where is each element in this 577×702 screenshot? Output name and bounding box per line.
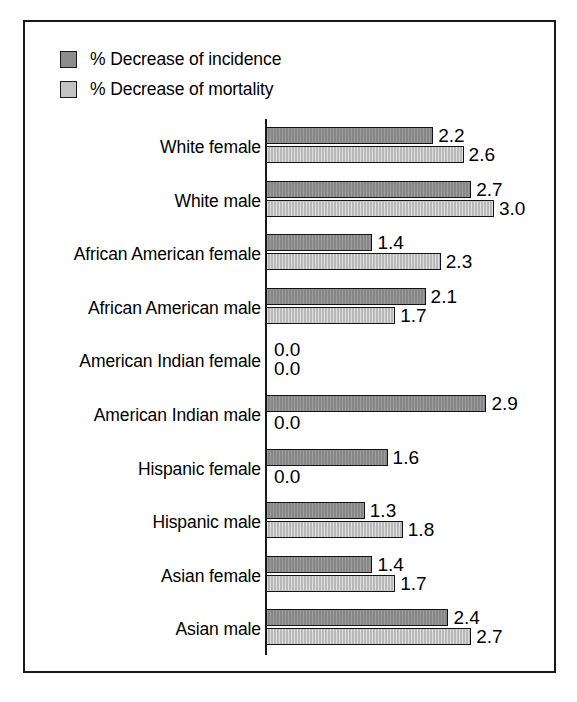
bar-mortality (266, 146, 464, 163)
bar-value-label: 0.0 (274, 341, 300, 358)
bar-row: 1.7 (266, 575, 427, 592)
bar-group: White male2.73.0 (25, 179, 558, 233)
bar-mortality (266, 521, 403, 538)
bar-incidence (266, 288, 426, 305)
category-label: Asian male (31, 619, 261, 640)
bar-row: 2.7 (266, 628, 503, 645)
bar-incidence (266, 127, 433, 144)
bar-value-label: 2.6 (469, 146, 495, 163)
bar-value-label: 1.3 (370, 502, 396, 519)
bar-row: 2.9 (266, 395, 518, 412)
bar-mortality (266, 307, 395, 324)
bar-value-label: 0.0 (274, 414, 300, 431)
bar-row: 0.0 (266, 341, 300, 358)
bar-value-label: 0.0 (274, 468, 300, 485)
bar-mortality (266, 253, 441, 270)
bar-value-label: 1.4 (377, 556, 403, 573)
bar-group: Hispanic female1.60.0 (25, 447, 558, 501)
bar-row: 3.0 (266, 200, 525, 217)
bar-group: American Indian female0.00.0 (25, 339, 558, 393)
bar-value-label: 2.3 (446, 253, 472, 270)
bar-group: Hispanic male1.31.8 (25, 500, 558, 554)
bar-value-label: 0.0 (274, 360, 300, 377)
bar-group: White female2.22.6 (25, 125, 558, 179)
bar-incidence (266, 609, 448, 626)
bar-row: 1.6 (266, 449, 419, 466)
category-label: White male (31, 191, 261, 212)
bar-incidence (266, 181, 471, 198)
bar-incidence (266, 556, 372, 573)
bar-row: 2.2 (266, 127, 465, 144)
category-label: White female (31, 137, 261, 158)
bar-group: Asian male2.42.7 (25, 607, 558, 661)
chart-legend: % Decrease of incidence % Decrease of mo… (60, 44, 360, 104)
legend-item-incidence: % Decrease of incidence (60, 44, 360, 74)
bar-value-label: 2.4 (453, 609, 479, 626)
bar-value-label: 1.7 (400, 575, 426, 592)
bar-mortality (266, 575, 395, 592)
legend-swatch-incidence (60, 51, 77, 68)
chart-figure-frame: White female2.22.6White male2.73.0Africa… (23, 20, 556, 673)
bar-group: American Indian male2.90.0 (25, 393, 558, 447)
legend-item-mortality: % Decrease of mortality (60, 74, 360, 104)
bar-value-label: 2.7 (476, 628, 502, 645)
category-label: Asian female (31, 566, 261, 587)
bar-row: 1.4 (266, 556, 404, 573)
bar-row: 0.0 (266, 414, 300, 431)
bar-row: 2.4 (266, 609, 480, 626)
category-label: Hispanic male (31, 512, 261, 533)
bar-value-label: 1.8 (408, 521, 434, 538)
bar-chart-plot-area: White female2.22.6White male2.73.0Africa… (25, 22, 558, 675)
bar-incidence (266, 502, 365, 519)
legend-label-mortality: % Decrease of mortality (90, 79, 273, 100)
bar-row: 1.8 (266, 521, 434, 538)
bar-row: 1.3 (266, 502, 396, 519)
category-label: American Indian male (31, 405, 261, 426)
bar-value-label: 3.0 (499, 200, 525, 217)
bar-value-label: 1.7 (400, 307, 426, 324)
bar-value-label: 2.9 (491, 395, 517, 412)
bar-row: 0.0 (266, 468, 300, 485)
bar-value-label: 2.7 (476, 181, 502, 198)
category-label: African American male (31, 298, 261, 319)
bar-incidence (266, 234, 372, 251)
bar-incidence (266, 395, 486, 412)
bar-value-label: 1.6 (393, 449, 419, 466)
bar-value-label: 2.2 (438, 127, 464, 144)
category-label: African American female (31, 244, 261, 265)
bar-row: 2.3 (266, 253, 472, 270)
legend-swatch-mortality (60, 81, 77, 98)
bar-row: 2.6 (266, 146, 495, 163)
bar-row: 1.7 (266, 307, 427, 324)
bar-row: 2.1 (266, 288, 457, 305)
bar-incidence (266, 449, 388, 466)
bar-group: African American female1.42.3 (25, 232, 558, 286)
bar-group: African American male2.11.7 (25, 286, 558, 340)
legend-label-incidence: % Decrease of incidence (90, 49, 281, 70)
category-label: American Indian female (31, 351, 261, 372)
bar-mortality (266, 628, 471, 645)
bar-mortality (266, 200, 494, 217)
bar-row: 1.4 (266, 234, 404, 251)
bar-value-label: 1.4 (377, 234, 403, 251)
bar-group: Asian female1.41.7 (25, 554, 558, 608)
bar-value-label: 2.1 (431, 288, 457, 305)
bar-row: 2.7 (266, 181, 503, 198)
category-label: Hispanic female (31, 459, 261, 480)
bar-row: 0.0 (266, 360, 300, 377)
